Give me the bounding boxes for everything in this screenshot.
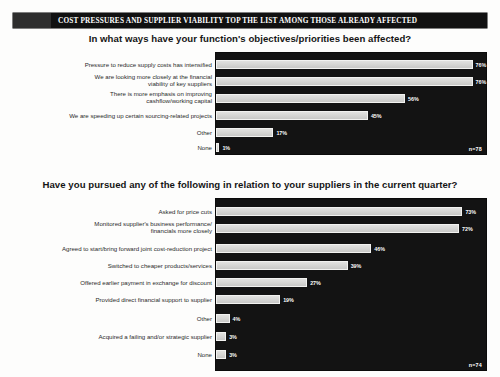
bar-value-label: 76% bbox=[476, 79, 487, 85]
bar-category-label: Switched to cheaper products/services bbox=[2, 262, 212, 269]
bar-row: Monitored supplier's business performanc… bbox=[216, 224, 473, 233]
bar bbox=[216, 143, 219, 152]
bar-row: Asked for price cuts73% bbox=[216, 207, 476, 216]
bar-category-label: We are looking more closely at the finan… bbox=[2, 73, 212, 88]
bar-row: Offered earlier payment in exchange for … bbox=[216, 278, 321, 287]
bar-value-label: 46% bbox=[374, 246, 385, 252]
bar-category-label: Acquired a failing and/or strategic supp… bbox=[2, 333, 212, 340]
bar-value-label: 3% bbox=[229, 334, 237, 340]
bar bbox=[216, 60, 473, 69]
bar bbox=[216, 244, 371, 253]
bar-category-label: Other bbox=[2, 129, 212, 136]
report-page: COST PRESSURES AND SUPPLIER VIABILITY TO… bbox=[0, 0, 500, 377]
bar-row: Switched to cheaper products/services39% bbox=[216, 261, 361, 270]
bar-category-label: Monitored supplier's business performanc… bbox=[2, 220, 212, 235]
bar-category-label: Asked for price cuts bbox=[2, 208, 212, 215]
bar-row: None1% bbox=[216, 143, 230, 152]
bar-value-label: 72% bbox=[462, 226, 473, 232]
bar-row: Agreed to start/bring forward joint cost… bbox=[216, 244, 385, 253]
chart-2-plot-area: Asked for price cuts73%Monitored supplie… bbox=[215, 198, 487, 371]
bar bbox=[216, 77, 473, 86]
bar bbox=[216, 314, 230, 323]
bar-value-label: 56% bbox=[408, 96, 419, 102]
bar bbox=[216, 94, 405, 103]
chart-section-1: In what ways have your function's object… bbox=[0, 33, 500, 155]
banner-accent-block bbox=[13, 13, 51, 28]
bar-value-label: 45% bbox=[371, 113, 382, 119]
bar-row: Pressure to reduce supply costs has inte… bbox=[216, 60, 486, 69]
bar-value-label: 39% bbox=[351, 263, 362, 269]
header-banner: COST PRESSURES AND SUPPLIER VIABILITY TO… bbox=[13, 13, 487, 28]
chart-2-title: Have you pursued any of the following in… bbox=[0, 179, 500, 190]
chart-1-plot-area: Pressure to reduce supply costs has inte… bbox=[215, 52, 487, 155]
chart-1-sample-size: n=78 bbox=[469, 146, 482, 152]
bar-value-label: 3% bbox=[229, 352, 237, 358]
bar-row: There is more emphasis on improving cash… bbox=[216, 94, 419, 103]
bar-value-label: 27% bbox=[310, 280, 321, 286]
chart-1-bars: Pressure to reduce supply costs has inte… bbox=[216, 53, 486, 154]
bar-row: Other4% bbox=[216, 314, 240, 323]
bar bbox=[216, 111, 368, 120]
bar bbox=[216, 332, 226, 341]
bar bbox=[216, 128, 273, 137]
bar bbox=[216, 207, 462, 216]
chart-2-bars: Asked for price cuts73%Monitored supplie… bbox=[216, 199, 486, 370]
bar-row: Provided direct financial support to sup… bbox=[216, 295, 294, 304]
bar bbox=[216, 261, 348, 270]
bar-row: We are looking more closely at the finan… bbox=[216, 77, 486, 86]
bar-category-label: Other bbox=[2, 315, 212, 322]
bar-value-label: 19% bbox=[283, 297, 294, 303]
bar-row: Acquired a failing and/or strategic supp… bbox=[216, 332, 237, 341]
banner-title: COST PRESSURES AND SUPPLIER VIABILITY TO… bbox=[51, 16, 417, 25]
bar-value-label: 73% bbox=[465, 209, 476, 215]
chart-1-title: In what ways have your function's object… bbox=[0, 33, 500, 44]
bar-row: None3% bbox=[216, 350, 237, 359]
bar-value-label: 17% bbox=[276, 130, 287, 136]
bar-category-label: We are speeding up certain sourcing-rela… bbox=[2, 112, 212, 119]
bar-category-label: Provided direct financial support to sup… bbox=[2, 296, 212, 303]
bar bbox=[216, 350, 226, 359]
chart-section-2: Have you pursued any of the following in… bbox=[0, 179, 500, 371]
bar-category-label: None bbox=[2, 351, 212, 358]
bar-category-label: Agreed to start/bring forward joint cost… bbox=[2, 245, 212, 252]
bar bbox=[216, 224, 459, 233]
bar-value-label: 1% bbox=[222, 145, 230, 151]
bar-row: Other17% bbox=[216, 128, 287, 137]
chart-2-sample-size: n=74 bbox=[469, 362, 482, 368]
bar-category-label: None bbox=[2, 144, 212, 151]
bar bbox=[216, 278, 307, 287]
bar-row: We are speeding up certain sourcing-rela… bbox=[216, 111, 382, 120]
bar-category-label: Offered earlier payment in exchange for … bbox=[2, 279, 212, 286]
bar-value-label: 4% bbox=[233, 316, 241, 322]
bar-value-label: 76% bbox=[476, 62, 487, 68]
bar-category-label: There is more emphasis on improving cash… bbox=[2, 90, 212, 105]
bar-category-label: Pressure to reduce supply costs has inte… bbox=[2, 61, 212, 68]
bar bbox=[216, 295, 280, 304]
